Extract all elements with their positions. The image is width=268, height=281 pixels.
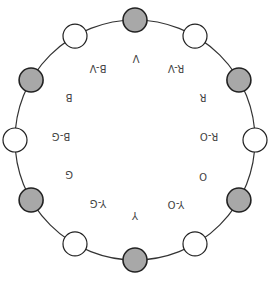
primary-color-node bbox=[123, 248, 147, 272]
color-wheel-diagram: VR-VRR-OOY-OYY-GGB-GBB-V bbox=[0, 0, 268, 281]
color-label: O bbox=[199, 171, 207, 182]
secondary-color-node bbox=[243, 128, 267, 152]
color-label: G bbox=[65, 169, 73, 180]
color-label: V bbox=[132, 53, 139, 64]
primary-color-node bbox=[227, 68, 251, 92]
color-label: B-V bbox=[89, 63, 106, 74]
color-label: R-O bbox=[200, 131, 218, 142]
color-label: B bbox=[65, 92, 72, 103]
secondary-color-node bbox=[63, 232, 87, 256]
secondary-color-node bbox=[183, 232, 207, 256]
color-label: R bbox=[199, 92, 206, 103]
secondary-color-node bbox=[63, 24, 87, 48]
secondary-color-node bbox=[3, 128, 27, 152]
primary-color-node bbox=[123, 8, 147, 32]
color-label: R-V bbox=[168, 63, 185, 74]
color-labels: VR-VRR-OOY-OYY-GGB-GBB-V bbox=[52, 53, 218, 221]
color-label: Y-O bbox=[168, 199, 186, 210]
color-label: Y bbox=[131, 210, 139, 221]
color-label: B-G bbox=[52, 131, 71, 142]
primary-color-node bbox=[227, 188, 251, 212]
color-label: Y-G bbox=[90, 198, 108, 209]
secondary-color-node bbox=[183, 24, 207, 48]
color-nodes bbox=[3, 8, 267, 272]
primary-color-node bbox=[19, 68, 43, 92]
primary-color-node bbox=[19, 188, 43, 212]
